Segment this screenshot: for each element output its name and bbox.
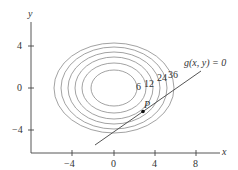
level-curve: [91, 70, 137, 106]
y-tick-label: 0: [17, 83, 22, 93]
y-tick-label: 4: [17, 41, 22, 51]
point-label: P: [144, 100, 150, 110]
constraint-label: g(x, y) = 0: [184, 58, 226, 68]
x-tick-label: 8: [193, 159, 198, 169]
y-tick-label: −4: [12, 125, 23, 135]
y-axis-label: y: [28, 9, 32, 19]
level-label-12: 12: [144, 79, 154, 89]
level-curve: [54, 43, 174, 133]
x-tick-label: 4: [152, 159, 157, 169]
level-label-36: 36: [168, 70, 178, 80]
x-tick-label: −4: [64, 159, 75, 169]
constraint-text: g(x, y) = 0: [184, 57, 226, 68]
x-axis-label: x: [222, 147, 226, 157]
level-curve: [75, 57, 153, 119]
point-p: [141, 110, 145, 114]
x-tick-label: 0: [111, 159, 116, 169]
level-curves: [54, 43, 174, 133]
contour-plot: [0, 0, 238, 170]
axes: [28, 22, 220, 156]
level-label-24: 24: [157, 73, 167, 83]
level-label-6: 6: [136, 82, 141, 92]
